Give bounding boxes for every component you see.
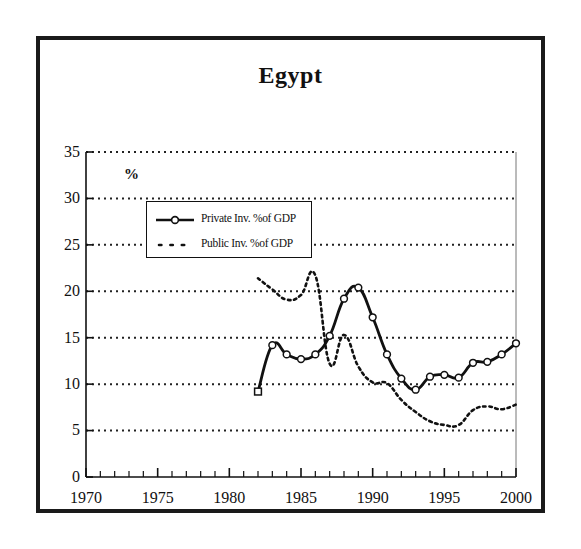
- legend-key-public-dotted-icon: [155, 237, 195, 249]
- gridlines: [86, 152, 516, 431]
- x-tick-label-1985: 1985: [271, 489, 331, 507]
- x-tick-label-1970: 1970: [56, 489, 116, 507]
- legend-item-public: Public Inv. %of GDP: [155, 233, 293, 253]
- legend-key-private-line-marker-icon: [155, 212, 195, 224]
- x-tick-label-1995: 1995: [414, 489, 474, 507]
- y-tick-label-5: 5: [46, 421, 80, 439]
- legend-label-public: Public Inv. %of GDP: [201, 237, 293, 249]
- series-public-line: [258, 271, 516, 426]
- chart-title: Egypt: [40, 62, 541, 89]
- y-tick-label-15: 15: [46, 329, 80, 347]
- x-tick-label-1975: 1975: [128, 489, 188, 507]
- figure-frame: Egypt % 35 30 25 20 15 10 5 0 1970 1975 …: [36, 36, 545, 513]
- y-tick-label-35: 35: [46, 143, 80, 161]
- legend: Private Inv. %of GDP Public Inv. %of GDP: [146, 201, 312, 258]
- legend-label-private: Private Inv. %of GDP: [201, 212, 296, 224]
- figure-page: Egypt % 35 30 25 20 15 10 5 0 1970 1975 …: [0, 0, 581, 549]
- x-tick-label-1980: 1980: [199, 489, 259, 507]
- x-axis-minor-ticks: [86, 468, 516, 477]
- series-private-line: [258, 286, 516, 391]
- y-tick-label-0: 0: [46, 468, 80, 486]
- legend-item-private: Private Inv. %of GDP: [155, 208, 296, 228]
- x-tick-label-2000: 2000: [486, 489, 546, 507]
- y-tick-label-25: 25: [46, 236, 80, 254]
- y-tick-label-20: 20: [46, 282, 80, 300]
- y-axis-major-ticks: [86, 152, 93, 477]
- x-tick-label-1990: 1990: [343, 489, 403, 507]
- y-tick-label-30: 30: [46, 189, 80, 207]
- y-tick-label-10: 10: [46, 375, 80, 393]
